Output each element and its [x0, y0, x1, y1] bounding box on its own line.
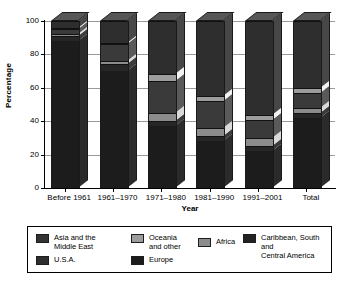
bar-segment [246, 146, 273, 151]
legend-item[interactable]: Europe [131, 255, 173, 265]
y-tick-label: 40 [30, 117, 39, 125]
legend-label: Africa [216, 237, 235, 246]
y-axis-title-text: Percentage [5, 62, 14, 107]
bar-segment [197, 21, 224, 96]
bar-segment [52, 29, 79, 34]
legend-item[interactable]: Africa [198, 237, 235, 247]
bar-segment [149, 21, 176, 74]
y-tick [41, 21, 45, 22]
bar-column [148, 21, 175, 188]
grid-line [45, 121, 335, 122]
bar-column [196, 21, 223, 188]
bar-front-face [196, 21, 225, 188]
bar-segment [101, 64, 128, 71]
bar-front-face [51, 21, 80, 188]
bar-segment [101, 43, 128, 45]
x-tick-label: 1981–1990 [194, 193, 234, 202]
x-tick [306, 188, 307, 192]
x-tick-label: 1971–1980 [146, 193, 186, 202]
y-tick [41, 88, 45, 89]
x-tick-label: Total [302, 193, 319, 202]
legend-item[interactable]: Oceania and other [131, 233, 181, 251]
bar-segment [52, 36, 79, 41]
y-axis-line [44, 20, 45, 189]
legend-swatch [131, 234, 144, 243]
bar-segment [246, 21, 273, 115]
bar-segment [197, 101, 224, 128]
bar-segment [101, 61, 128, 64]
legend-item[interactable]: Asia and the Middle East [36, 233, 96, 251]
y-tick [41, 188, 45, 189]
bar-segment [197, 96, 224, 101]
x-tick-label: Before 1961 [47, 193, 91, 202]
bar-segment [294, 108, 321, 113]
bar-segment [294, 113, 321, 118]
x-tick [113, 188, 114, 192]
plot-area: Percentage 020406080100 Before 19611961–… [0, 0, 358, 215]
legend-label: Oceania and other [149, 233, 181, 251]
x-tick [210, 188, 211, 192]
legend-item[interactable]: Caribbean, South and Central America [243, 233, 331, 260]
chart-legend: Asia and the Middle EastOceania and othe… [27, 226, 332, 273]
bar-segment [246, 120, 273, 138]
bar-front-face [100, 21, 129, 188]
bar-segment [197, 136, 224, 141]
axes: 020406080100 [45, 21, 335, 188]
bar-segment [101, 44, 128, 61]
legend-label: Asia and the Middle East [54, 233, 96, 251]
y-tick-label: 0 [35, 184, 39, 192]
bar-front-face [245, 21, 274, 188]
grid-line [45, 88, 335, 89]
legend-item[interactable]: U.S.A. [36, 255, 76, 265]
bar-segment [101, 71, 128, 188]
bar-column [293, 21, 320, 188]
bar-segment [149, 81, 176, 113]
y-tick-label: 100 [26, 17, 39, 25]
bar-segment [246, 138, 273, 146]
bar-segment [294, 93, 321, 108]
bar-segment [197, 128, 224, 136]
legend-swatch [131, 256, 144, 265]
chart-figure: Percentage 020406080100 Before 19611961–… [0, 0, 358, 283]
bar-segment [149, 121, 176, 126]
bar-segment [52, 34, 79, 36]
bar-column [51, 21, 78, 188]
y-axis-title: Percentage [2, 0, 16, 170]
legend-swatch [243, 234, 256, 243]
grid-line [45, 155, 335, 156]
y-tick-label: 20 [30, 151, 39, 159]
bar-segment [246, 151, 273, 188]
legend-swatch [198, 238, 211, 247]
legend-label: Europe [149, 255, 173, 264]
x-tick [65, 188, 66, 192]
legend-swatch [36, 234, 49, 243]
y-tick [41, 54, 45, 55]
y-tick-label: 60 [30, 84, 39, 92]
bar-segment [52, 41, 79, 188]
bar-segment [294, 118, 321, 188]
x-axis-title: Year [45, 204, 335, 213]
bar-segment [149, 74, 176, 81]
x-tick-label: 1991–2001 [242, 193, 282, 202]
bar-segment [149, 113, 176, 121]
bar-segment [197, 141, 224, 188]
legend-label: Caribbean, South and Central America [261, 233, 331, 260]
bar-column [245, 21, 272, 188]
bar-segment [52, 21, 79, 28]
x-tick [258, 188, 259, 192]
grid-line [45, 21, 335, 22]
x-tick [161, 188, 162, 192]
bar-front-face [293, 21, 322, 188]
bar-segment [294, 88, 321, 93]
x-tick-label: 1961–1970 [97, 193, 137, 202]
grid-line [45, 54, 335, 55]
y-tick [41, 121, 45, 122]
y-tick-label: 80 [30, 50, 39, 58]
bar-segment [52, 28, 79, 30]
bar-segment [149, 126, 176, 188]
bar-segment [294, 21, 321, 88]
y-tick [41, 155, 45, 156]
bar-segment [246, 115, 273, 120]
bar-column [100, 21, 127, 188]
x-axis-line [44, 188, 336, 189]
